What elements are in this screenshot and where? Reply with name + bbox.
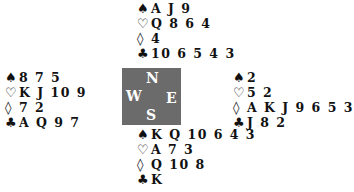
spade-icon: ♠: [233, 70, 247, 85]
east-diamonds: ◊A K J 9 6 5 3: [233, 100, 354, 115]
north-hand: ♠A J 9 ♡Q 8 6 4 ◊4 ♣10 6 5 4 3: [137, 1, 236, 61]
west-spades: ♠8 7 5: [5, 70, 87, 85]
compass-south: S: [146, 107, 156, 123]
diamond-icon: ◊: [5, 100, 19, 115]
east-hearts: ♡5 2: [233, 85, 354, 100]
north-spades: ♠A J 9: [137, 1, 236, 16]
north-diamonds: ◊4: [137, 31, 236, 46]
heart-icon: ♡: [233, 85, 247, 100]
west-diamonds: ◊7 2: [5, 100, 87, 115]
west-hand: ♠8 7 5 ♡K J 10 9 ◊7 2 ♣A Q 9 7: [5, 70, 87, 130]
club-icon: ♣: [5, 115, 19, 130]
spade-icon: ♠: [5, 70, 19, 85]
spade-icon: ♠: [137, 127, 151, 142]
club-icon: ♣: [137, 172, 151, 187]
compass-east: E: [166, 90, 177, 106]
compass-west: W: [126, 88, 142, 104]
north-clubs: ♣10 6 5 4 3: [137, 46, 236, 61]
diamond-icon: ◊: [137, 157, 151, 172]
heart-icon: ♡: [5, 85, 19, 100]
club-icon: ♣: [137, 46, 151, 61]
east-spades: ♠2: [233, 70, 354, 85]
south-clubs: ♣K: [137, 172, 256, 187]
diamond-icon: ◊: [233, 100, 247, 115]
spade-icon: ♠: [137, 1, 151, 16]
east-hand: ♠2 ♡5 2 ◊A K J 9 6 5 3 ♣J 8 2: [233, 70, 354, 130]
heart-icon: ♡: [137, 142, 151, 157]
south-spades: ♠K Q 10 6 4 3: [137, 127, 256, 142]
south-hearts: ♡A 7 3: [137, 142, 256, 157]
compass-north: N: [146, 70, 159, 86]
south-hand: ♠K Q 10 6 4 3 ♡A 7 3 ◊Q 10 8 ♣K: [137, 127, 256, 187]
west-clubs: ♣A Q 9 7: [5, 115, 87, 130]
south-diamonds: ◊Q 10 8: [137, 157, 256, 172]
west-hearts: ♡K J 10 9: [5, 85, 87, 100]
compass-box: N W E S: [122, 68, 181, 125]
heart-icon: ♡: [137, 16, 151, 31]
north-hearts: ♡Q 8 6 4: [137, 16, 236, 31]
diamond-icon: ◊: [137, 31, 151, 46]
